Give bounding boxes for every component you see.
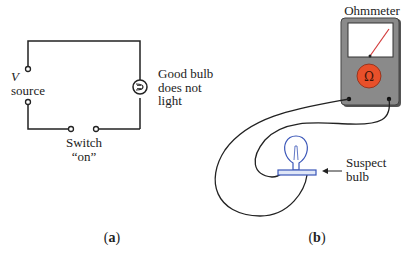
test-lead-outer	[215, 99, 349, 216]
source-label: source	[11, 83, 45, 98]
caption-b: (b)	[308, 230, 325, 246]
source-symbol: V	[11, 69, 21, 84]
source-terminal-bottom	[26, 100, 31, 105]
wire-top	[28, 41, 140, 84]
suspect-bulb-icon	[278, 136, 316, 175]
caption-a: (a)	[104, 230, 121, 246]
good-bulb-label-3: light	[158, 93, 182, 108]
switch-terminal-left	[69, 127, 74, 132]
source-terminal-top	[26, 67, 31, 72]
wire-bottom	[28, 102, 69, 129]
pointer-arrow-icon	[322, 168, 342, 174]
suspect-bulb-label-2: bulb	[346, 169, 369, 184]
ohmmeter-title: Ohmmeter	[344, 3, 400, 18]
good-bulb-label-1: Good bulb	[158, 66, 213, 81]
ohmmeter-diagram-b: Ohmmeter Ω Suspect bulb (b)	[215, 3, 401, 246]
switch-terminal-right	[94, 127, 99, 132]
suspect-bulb-label-1: Suspect	[346, 155, 387, 170]
switch-label-1: Switch	[66, 135, 103, 150]
switch-label-2: “on”	[72, 149, 97, 164]
bulb-symbol-icon	[133, 80, 147, 94]
circuit-diagram-a: V source Good bulb does not light Switch…	[11, 41, 213, 246]
svg-text:Ω: Ω	[364, 70, 374, 84]
ohmmeter-icon: Ω	[341, 18, 401, 107]
